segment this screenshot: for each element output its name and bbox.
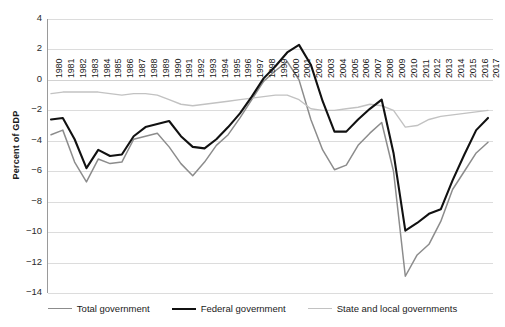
x-axis-tick-label: 2002 (314, 59, 324, 78)
gridline (48, 293, 493, 294)
x-axis-tick-label: 2014 (456, 59, 466, 78)
series-line-state-and-local-governments (51, 92, 488, 127)
x-axis-tick-label: 2000 (291, 59, 301, 78)
x-axis-tick-label: 1981 (66, 59, 76, 78)
y-axis-tick-label: −4 (31, 134, 42, 145)
x-axis-tick-label: 2008 (385, 59, 395, 78)
x-axis-tick-label: 1991 (184, 59, 194, 78)
x-axis-tick-label: 1985 (113, 59, 123, 78)
y-axis-tick-label: 2 (37, 42, 42, 53)
x-axis-tick-label: 1987 (137, 59, 147, 78)
legend-swatch-state-and-local-governments (308, 308, 332, 309)
x-axis-tick-label: 2006 (361, 59, 371, 78)
y-axis-tick-label: 4 (37, 12, 42, 23)
x-axis-tick-label: 2009 (397, 59, 407, 78)
x-axis-tick-label: 2011 (421, 59, 431, 78)
chart-legend: Total government Federal government Stat… (0, 303, 505, 314)
y-axis-tick-label: 0 (37, 73, 42, 84)
x-axis-tick-label: 2010 (409, 59, 419, 78)
x-axis-tick-label: 1994 (220, 59, 230, 78)
legend-item-total-government[interactable]: Total government (48, 303, 150, 314)
x-axis-tick-label: 1986 (125, 59, 135, 78)
x-axis-tick-label: 1993 (208, 59, 218, 78)
x-axis-tick-label: 2016 (480, 59, 490, 78)
legend-swatch-federal-government (172, 308, 196, 310)
x-axis-tick-label: 1996 (243, 59, 253, 78)
x-axis-tick-label: 1997 (255, 59, 265, 78)
x-axis-tick-label: 2017 (491, 59, 501, 78)
chart-container: Percent of GDP 420−2−4−6−8−10−12−14 1980… (0, 0, 505, 327)
x-axis-tick-label: 1982 (78, 59, 88, 78)
legend-label-total-government: Total government (77, 303, 150, 314)
x-axis-tick-label: 2003 (326, 59, 336, 78)
y-axis-tick-label: −12 (26, 256, 42, 267)
x-axis-tick-label: 1990 (173, 59, 183, 78)
legend-label-state-and-local-governments: State and local governments (337, 303, 457, 314)
x-axis-tick-label: 2012 (432, 59, 442, 78)
x-axis-tick-label: 1998 (267, 59, 277, 78)
x-axis-tick-label: 2013 (444, 59, 454, 78)
x-axis-tick-label: 1992 (196, 59, 206, 78)
y-axis-tick-label: −10 (26, 225, 42, 236)
x-axis-tick-label: 1995 (232, 59, 242, 78)
x-axis-tick-label: 2015 (468, 59, 478, 78)
y-axis-title: Percent of GDP (11, 85, 21, 205)
x-axis-tick-label: 2001 (302, 59, 312, 78)
y-axis-tick-label: −6 (31, 164, 42, 175)
x-axis-tick-label: 2007 (373, 59, 383, 78)
legend-item-federal-government[interactable]: Federal government (172, 303, 286, 314)
y-axis-tick-label: −14 (26, 286, 42, 297)
x-axis-tick-label: 2004 (338, 59, 348, 78)
legend-swatch-total-government (48, 308, 72, 309)
x-axis-tick-label: 2005 (350, 59, 360, 78)
y-axis-tick-label: −8 (31, 195, 42, 206)
x-axis-tick-label: 1988 (149, 59, 159, 78)
legend-item-state-and-local-governments[interactable]: State and local governments (308, 303, 457, 314)
x-axis-tick-label: 1980 (54, 59, 64, 78)
legend-label-federal-government: Federal government (201, 303, 286, 314)
x-axis-tick-label: 1989 (161, 59, 171, 78)
x-axis-tick-label: 1984 (102, 59, 112, 78)
x-axis-tick-label: 1999 (279, 59, 289, 78)
y-axis-tick-label: −2 (31, 103, 42, 114)
x-axis-tick-label: 1983 (90, 59, 100, 78)
